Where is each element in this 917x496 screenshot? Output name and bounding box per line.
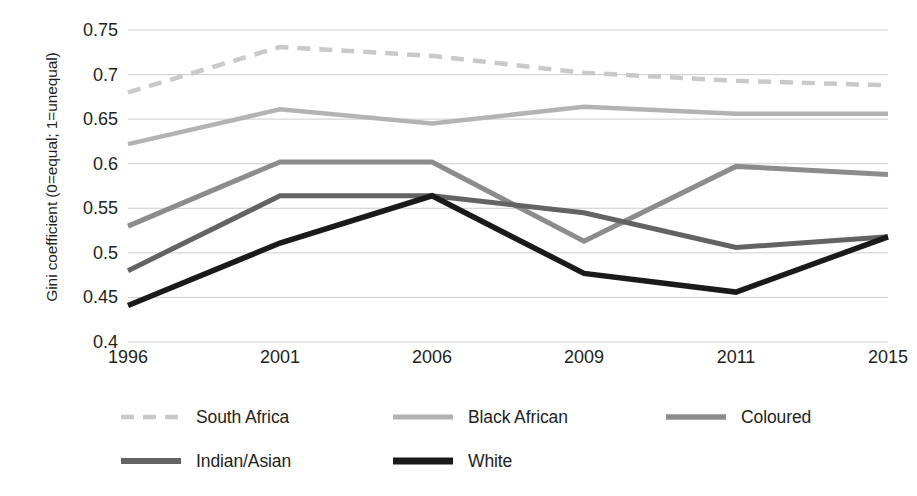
- x-axis-tick-labels: 199620012006200920112015: [0, 347, 917, 377]
- x-tick-label: 2015: [868, 347, 908, 368]
- legend-swatch-icon: [392, 454, 454, 468]
- y-tick-label: 0.75: [58, 20, 118, 41]
- legend-swatch-icon: [392, 410, 454, 424]
- plot-area: [128, 30, 888, 342]
- y-tick-label: 0.45: [58, 287, 118, 308]
- legend-label: Indian/Asian: [196, 451, 291, 472]
- legend-row: Indian/AsianWhite: [120, 442, 910, 480]
- legend-swatch-icon: [665, 410, 727, 424]
- legend-item-indian-asian[interactable]: Indian/Asian: [120, 442, 291, 480]
- legend-label: South Africa: [196, 407, 289, 428]
- legend-item-coloured[interactable]: Coloured: [665, 398, 811, 436]
- y-tick-label: 0.65: [58, 109, 118, 130]
- legend-label: Black African: [468, 407, 568, 428]
- chart-legend: South AfricaBlack AfricanColouredIndian/…: [120, 398, 910, 488]
- legend-item-black-african[interactable]: Black African: [392, 398, 568, 436]
- legend-swatch-icon: [120, 454, 182, 468]
- y-axis-tick-labels: 0.750.70.650.60.550.50.450.4: [58, 0, 118, 360]
- legend-label: White: [468, 451, 512, 472]
- x-tick-label: 1996: [108, 347, 148, 368]
- plot-svg: [128, 30, 888, 342]
- legend-item-south-africa[interactable]: South Africa: [120, 398, 289, 436]
- x-tick-label: 2009: [564, 347, 604, 368]
- y-tick-label: 0.6: [58, 153, 118, 174]
- legend-label: Coloured: [741, 407, 811, 428]
- legend-item-white[interactable]: White: [392, 442, 512, 480]
- gridlines: [128, 30, 888, 342]
- series-line-coloured: [128, 162, 888, 241]
- series-lines: [128, 47, 888, 306]
- legend-swatch-icon: [120, 410, 182, 424]
- x-tick-label: 2011: [717, 347, 756, 368]
- series-line-black-african: [128, 107, 888, 144]
- x-tick-label: 2006: [412, 347, 452, 368]
- x-tick-label: 2001: [260, 347, 300, 368]
- gini-coefficient-line-chart: Gini coefficient (0=equal; 1=unequal) 0.…: [0, 0, 917, 496]
- legend-row: South AfricaBlack AfricanColoured: [120, 398, 910, 436]
- series-line-south-africa: [128, 47, 888, 92]
- y-tick-label: 0.7: [58, 64, 118, 85]
- y-tick-label: 0.55: [58, 198, 118, 219]
- y-tick-label: 0.5: [58, 242, 118, 263]
